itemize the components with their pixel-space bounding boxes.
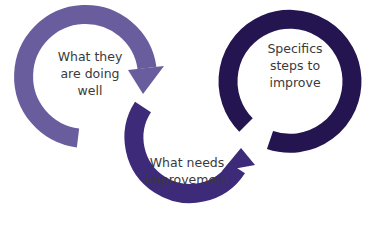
cycle-arrows	[0, 0, 367, 241]
feedback-cycle-diagram: What they are doing well Specifics steps…	[0, 0, 367, 241]
step-label-specific-steps: Specifics steps to improve	[245, 40, 345, 91]
step-label-needs-improvement: What needs improvement	[132, 154, 242, 188]
step-label-doing-well: What they are doing well	[40, 48, 140, 99]
